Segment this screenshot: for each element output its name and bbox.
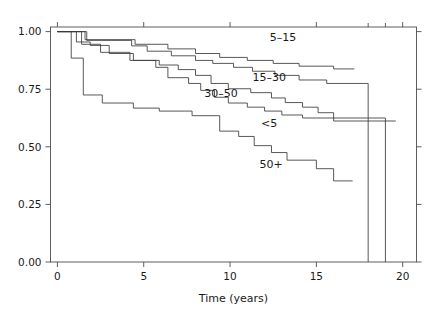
x-axis: 05101520	[54, 22, 409, 282]
plot-frame	[51, 27, 417, 262]
curve-label: 15–30	[252, 71, 286, 84]
survival-curve-30-50	[57, 32, 385, 262]
y-tick-label: 1.00	[18, 25, 41, 37]
plot-border	[51, 27, 417, 262]
x-tick-label: 15	[310, 270, 323, 282]
survival-curve-5	[57, 32, 395, 121]
curve-label: 50+	[259, 158, 282, 171]
y-tick-label: 0.00	[18, 256, 41, 268]
x-tick-label: 5	[140, 270, 147, 282]
curve-labels: 5–1515–3030–50<550+	[204, 31, 296, 171]
y-axis: 0.000.250.500.751.00	[18, 25, 421, 267]
survival-curves	[57, 32, 395, 262]
y-tick-label: 0.25	[18, 198, 41, 210]
curve-label: 30–50	[204, 87, 238, 100]
x-tick-label: 10	[223, 270, 236, 282]
curve-label: 5–15	[270, 31, 297, 44]
x-axis-title-text: Time (years)	[198, 292, 268, 305]
curve-label: <5	[261, 117, 277, 130]
x-tick-label: 20	[396, 270, 409, 282]
survival-plot: 0.000.250.500.751.00 05101520 5–1515–303…	[0, 0, 432, 315]
x-axis-title: Time (years)	[198, 292, 268, 305]
figure-container: — — — — — 0.000.250.500.751.00 05101520 …	[0, 0, 432, 315]
y-tick-label: 0.75	[18, 83, 41, 95]
survival-curve-50	[57, 32, 352, 181]
survival-curve-5-15	[57, 32, 354, 69]
x-tick-label: 0	[54, 270, 61, 282]
y-tick-label: 0.50	[18, 141, 41, 153]
